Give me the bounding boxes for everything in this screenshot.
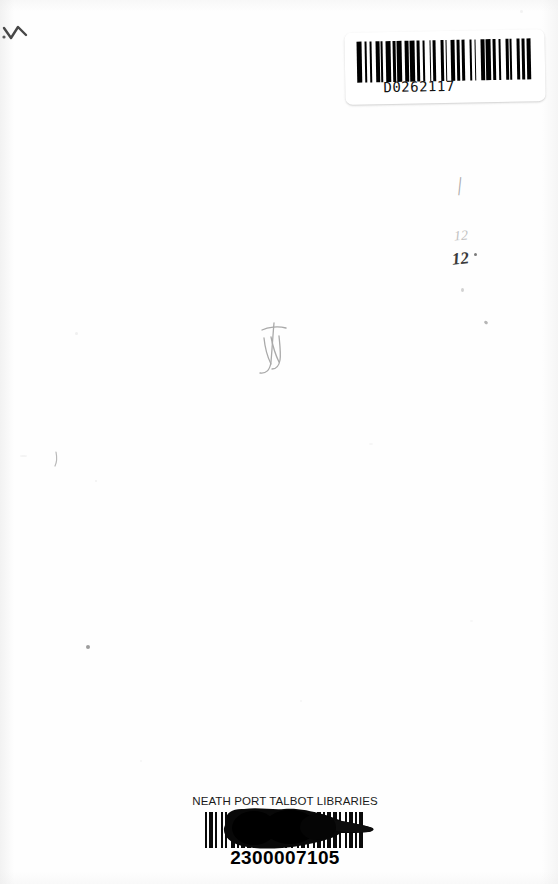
library-name-text: NEATH PORT TALBOT LIBRARIES <box>185 795 385 807</box>
pencil-edge-mark <box>52 450 62 468</box>
barcode-bars-top <box>356 38 535 82</box>
barcode-bars-bottom <box>205 812 365 848</box>
pencil-dot <box>474 253 477 256</box>
pencil-scribble-center <box>252 316 298 380</box>
barcode-bar <box>363 812 365 848</box>
pencil-price-faint: 12 <box>453 228 468 245</box>
library-barcode-number: 2300007105 <box>185 847 385 869</box>
publisher-barcode-sticker: D0262117 <box>344 29 545 105</box>
scan-speckles <box>0 0 558 884</box>
pencil-dot <box>86 645 90 649</box>
pencil-dot <box>461 288 464 292</box>
pencil-corner-mark <box>2 22 40 44</box>
library-barcode-label: NEATH PORT TALBOT LIBRARIES 2300007105 <box>185 795 385 873</box>
pencil-dot <box>484 320 489 325</box>
barcode-bar <box>531 38 535 79</box>
publisher-barcode-number: D0262117 <box>383 78 455 95</box>
paper-texture <box>0 0 558 884</box>
pencil-price-dark: 12 <box>451 248 470 270</box>
pencil-tick-mark: | <box>457 173 463 196</box>
scanned-page: D0262117 NEATH PORT TALBOT LIBRARIES 230… <box>0 0 558 884</box>
